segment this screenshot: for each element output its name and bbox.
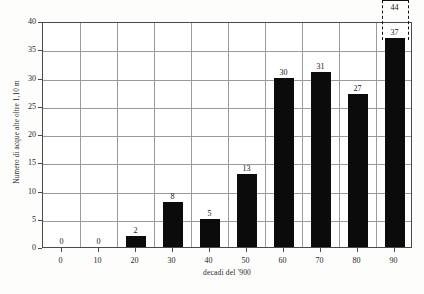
- gridline-vertical: [154, 23, 155, 247]
- x-tick-mark: [135, 248, 136, 252]
- x-tick-label: 70: [305, 257, 335, 265]
- x-tick-mark: [172, 248, 173, 252]
- x-tick-mark: [98, 248, 99, 252]
- x-tick-mark: [357, 248, 358, 252]
- bar-value-label: 2: [119, 227, 153, 235]
- bar-value-label: 0: [45, 238, 79, 246]
- gridline-vertical: [302, 23, 303, 247]
- x-tick-label: 10: [83, 257, 113, 265]
- y-tick-mark: [38, 248, 42, 249]
- x-tick-label: 50: [231, 257, 261, 265]
- bar-value-label: 31: [304, 63, 338, 71]
- bar: [385, 38, 405, 247]
- bar-value-label: 0: [82, 238, 116, 246]
- x-tick-mark: [320, 248, 321, 252]
- gridline-horizontal: [43, 80, 411, 81]
- bar: [274, 78, 294, 248]
- x-tick-mark: [283, 248, 284, 252]
- x-tick-mark: [209, 248, 210, 252]
- bar-value-label: 37: [378, 29, 412, 37]
- bar-value-label: 5: [193, 210, 227, 218]
- y-tick-label: 0: [10, 244, 36, 252]
- gridline-horizontal: [43, 51, 411, 52]
- y-tick-label: 40: [10, 18, 36, 26]
- bar: [200, 219, 220, 247]
- x-axis-title: decadi del '900: [42, 268, 412, 278]
- x-tick-mark: [246, 248, 247, 252]
- x-tick-label: 80: [342, 257, 372, 265]
- y-tick-label: 35: [10, 46, 36, 54]
- bar-value-label: 27: [341, 85, 375, 93]
- bar: [311, 72, 331, 247]
- projection-value-label: 44: [380, 4, 410, 12]
- bar-chart: Numero di acque alte oltre 1,10 m 051015…: [0, 0, 424, 294]
- x-tick-label: 90: [379, 257, 409, 265]
- x-tick-mark: [61, 248, 62, 252]
- y-tick-label: 10: [10, 188, 36, 196]
- bar-value-label: 8: [156, 193, 190, 201]
- x-tick-label: 40: [194, 257, 224, 265]
- bar-value-label: 13: [230, 165, 264, 173]
- x-tick-label: 60: [268, 257, 298, 265]
- y-tick-label: 20: [10, 131, 36, 139]
- gridline-vertical: [117, 23, 118, 247]
- y-tick-label: 15: [10, 159, 36, 167]
- x-tick-mark: [394, 248, 395, 252]
- bar: [237, 174, 257, 247]
- y-tick-label: 25: [10, 103, 36, 111]
- bar: [348, 94, 368, 247]
- gridline-vertical: [339, 23, 340, 247]
- y-tick-label: 5: [10, 216, 36, 224]
- plot-area: 002851330312737 44: [42, 22, 412, 248]
- x-tick-label: 30: [157, 257, 187, 265]
- gridline-vertical: [376, 23, 377, 247]
- x-tick-label: 0: [46, 257, 76, 265]
- projection-cap: [382, 0, 408, 1]
- gridline-vertical: [80, 23, 81, 247]
- gridline-vertical: [228, 23, 229, 247]
- x-tick-label: 20: [120, 257, 150, 265]
- bar-value-label: 30: [267, 69, 301, 77]
- gridline-vertical: [265, 23, 266, 247]
- y-tick-label: 30: [10, 75, 36, 83]
- bar: [163, 202, 183, 247]
- bar: [126, 236, 146, 247]
